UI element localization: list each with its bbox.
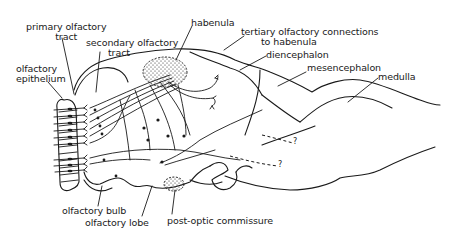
label-medulla: medulla (378, 72, 416, 82)
label-tertiary-olfactory-connections: tertiary olfactory connections to habenu… (241, 27, 378, 47)
label-post-optic-commissure: post-optic commissure (167, 216, 273, 226)
unknown-marker-1: ? (293, 137, 297, 147)
label-diencephalon: diencephalon (266, 50, 329, 60)
label-olfactory-epithelium: olfactory epithelium (16, 64, 66, 84)
label-olfactory-lobe: olfactory lobe (85, 218, 149, 228)
label-olfactory-bulb: olfactory bulb (62, 206, 126, 216)
olfactory-bulb-shape (84, 166, 210, 191)
uncertain-projection-2 (230, 156, 278, 166)
olfactory-epithelium-shape (57, 99, 79, 190)
post-optic-commissure-shape (164, 177, 184, 191)
label-mesencephalon: mesencephalon (307, 63, 381, 73)
secondary-olfactory-tract (90, 75, 262, 177)
label-secondary-olfactory-tract: secondary olfactory tract (86, 38, 178, 58)
label-habenula: habenula (191, 18, 234, 28)
habenula-shape (143, 57, 187, 87)
unknown-marker-2: ? (278, 160, 282, 170)
